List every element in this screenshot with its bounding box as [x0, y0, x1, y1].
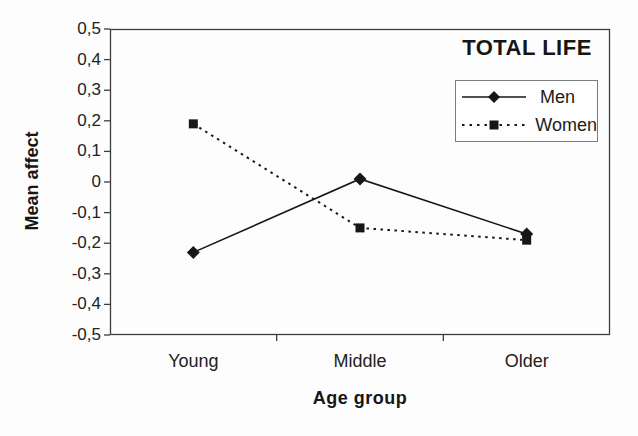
women-data-point: [189, 119, 198, 128]
x-category-label: Middle: [290, 351, 430, 371]
legend-diamond-marker: [488, 91, 500, 103]
y-tick-label: -0,4: [0, 295, 101, 313]
chart-title: TOTAL LIFE: [452, 35, 602, 61]
men-series-line: [193, 179, 526, 252]
women-data-point: [356, 223, 365, 232]
y-tick-label: -0,3: [0, 265, 101, 283]
y-tick-label: -0,5: [0, 326, 101, 344]
y-tick-label: 0,2: [0, 112, 101, 130]
y-tick-label: 0: [0, 173, 101, 191]
y-tick-label: -0,2: [0, 234, 101, 252]
legend: MenWomen: [455, 80, 598, 142]
legend-square-marker: [490, 121, 499, 130]
x-category-label: Older: [457, 351, 597, 371]
x-axis-title: Age group: [260, 388, 460, 409]
chart-figure: 0,50,40,30,20,10-0,1-0,2-0,3-0,4-0,5Youn…: [0, 0, 638, 436]
men-data-point: [354, 172, 367, 185]
x-category-label: Young: [123, 351, 263, 371]
men-data-point: [187, 246, 200, 259]
legend-item-women: Women: [456, 111, 597, 139]
legend-item-men: Men: [456, 83, 597, 111]
y-tick-label: 0,3: [0, 81, 101, 99]
legend-diamond-line-sample: [460, 89, 532, 105]
y-tick-label: 0,5: [0, 20, 101, 38]
y-tick-label: 0,1: [0, 142, 101, 160]
y-axis-title: Mean affect: [22, 81, 46, 281]
y-tick-label: 0,4: [0, 51, 101, 69]
legend-label-men: Men: [540, 87, 575, 108]
women-data-point: [522, 236, 531, 245]
y-tick-label: -0,1: [0, 204, 101, 222]
legend-square-line-sample: [460, 117, 527, 133]
legend-label-women: Women: [535, 115, 597, 136]
